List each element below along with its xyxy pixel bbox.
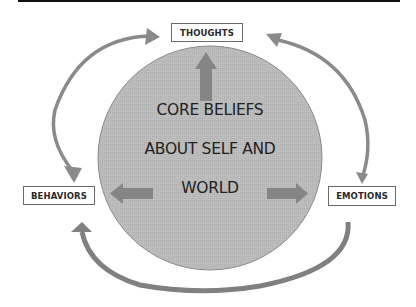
core-beliefs-line-3: WORLD <box>120 179 300 197</box>
core-beliefs-line-1: CORE BELIEFS <box>120 101 300 119</box>
core-beliefs-line-2: ABOUT SELF AND <box>120 140 300 158</box>
node-behaviors: BEHAVIORS <box>23 186 95 205</box>
node-thoughts: THOUGHTS <box>171 23 243 42</box>
node-emotions: EMOTIONS <box>328 186 396 206</box>
